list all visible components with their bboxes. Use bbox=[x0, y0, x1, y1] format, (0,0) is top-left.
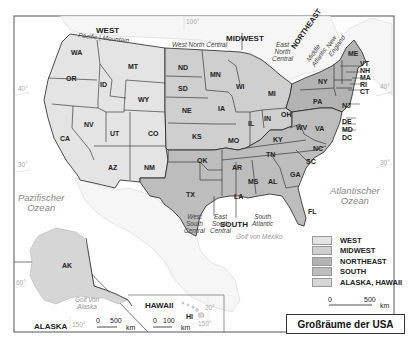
state-label-az: AZ bbox=[108, 164, 117, 171]
grid-label-20-hi: 20° bbox=[205, 305, 215, 312]
state-label-me: ME bbox=[348, 50, 359, 57]
alaska-scale-unit: km bbox=[126, 324, 135, 331]
map-title: Großräume der USA bbox=[297, 319, 393, 330]
state-label-ct: CT bbox=[360, 88, 369, 95]
state-label-ak: AK bbox=[62, 262, 72, 269]
state-label-id: ID bbox=[100, 81, 107, 88]
state-label-al: AL bbox=[268, 178, 277, 185]
division-label-east-south-central: East South Central bbox=[210, 214, 231, 234]
state-label-nm: NM bbox=[144, 164, 155, 171]
grid-label-30-left: 30° bbox=[18, 162, 28, 169]
state-label-de: DE bbox=[342, 118, 352, 125]
state-label-or: OR bbox=[66, 75, 77, 82]
state-label-md: MD bbox=[342, 126, 353, 133]
legend-item-alaska-hawaii: ALASKA, HAWAII bbox=[312, 277, 402, 288]
state-label-nh: NH bbox=[360, 67, 370, 74]
state-label-tx: TX bbox=[186, 191, 195, 198]
legend-swatch bbox=[312, 267, 332, 276]
state-label-ma: MA bbox=[360, 74, 371, 81]
state-label-tn: TN bbox=[266, 151, 275, 158]
division-label-west-north-central: West North Central bbox=[172, 42, 227, 49]
state-label-oh: OH bbox=[281, 111, 292, 118]
alaska-scale-value: 500 bbox=[110, 317, 122, 324]
state-label-la: LA bbox=[234, 193, 243, 200]
hawaii-scale-unit: km bbox=[181, 324, 190, 331]
state-label-il: IL bbox=[248, 120, 254, 127]
state-label-sc: SC bbox=[306, 158, 316, 165]
state-label-co: CO bbox=[148, 130, 159, 137]
state-label-nc: NC bbox=[313, 145, 323, 152]
label-pacific-ocean: Pazifischer Ozean bbox=[18, 193, 64, 214]
state-label-pa: PA bbox=[313, 98, 322, 105]
state-label-ok: OK bbox=[197, 157, 208, 164]
inset-label-hawaii: HAWAII bbox=[145, 302, 173, 310]
state-label-mt: MT bbox=[128, 63, 138, 70]
state-label-hi: HI bbox=[186, 313, 193, 320]
label-atlantic-ocean: Atlantischer Ozean bbox=[330, 186, 380, 207]
state-label-ms: MS bbox=[248, 178, 259, 185]
state-label-ny: NY bbox=[318, 78, 328, 85]
hawaii-scale-value: 100 bbox=[163, 317, 175, 324]
state-label-in: IN bbox=[264, 115, 271, 122]
state-label-ky: KY bbox=[273, 136, 283, 143]
state-label-wi: WI bbox=[236, 83, 245, 90]
state-label-mi: MI bbox=[268, 90, 276, 97]
legend-swatch bbox=[312, 278, 332, 287]
legend-item-west: WEST bbox=[312, 235, 402, 246]
label-gulf-of-alaska: Golf von Alaska bbox=[75, 296, 99, 310]
state-label-vt: VT bbox=[360, 60, 369, 67]
state-label-mn: MN bbox=[210, 71, 221, 78]
state-label-ut: UT bbox=[110, 130, 119, 137]
region-label-midwest: MIDWEST bbox=[226, 35, 264, 43]
division-label-west-south-central: West South Central bbox=[184, 214, 205, 234]
grid-label-40-right: 40° bbox=[380, 84, 390, 91]
state-label-ar: AR bbox=[232, 164, 242, 171]
state-label-mo: MO bbox=[228, 137, 239, 144]
state-label-wa: WA bbox=[71, 49, 82, 56]
state-label-wv: WV bbox=[296, 124, 307, 131]
state-label-dc: DC bbox=[342, 134, 352, 141]
legend-swatch bbox=[312, 246, 332, 255]
grid-label-100: 100° bbox=[186, 19, 199, 26]
state-label-wy: WY bbox=[138, 96, 149, 103]
grid-label-150-hi: 150° bbox=[198, 321, 211, 328]
state-label-ks: KS bbox=[192, 133, 202, 140]
state-label-sd: SD bbox=[178, 85, 188, 92]
alaska-scale-zero: 0 bbox=[96, 317, 100, 324]
state-label-nv: NV bbox=[84, 121, 94, 128]
hawaii-scale-zero: 0 bbox=[153, 317, 157, 324]
map-title-box: Großräume der USA bbox=[286, 314, 405, 334]
legend-swatch bbox=[312, 257, 332, 266]
state-label-va: VA bbox=[315, 125, 324, 132]
main-scale-zero: 0 bbox=[328, 296, 332, 303]
legend-swatch bbox=[312, 236, 332, 245]
grid-label-150-ak: 150° bbox=[72, 322, 85, 329]
division-label-south-atlantic: South Atlantic bbox=[252, 214, 273, 228]
map-legend: WEST MIDWEST NORTHEAST SOUTH ALASKA, HAW… bbox=[312, 235, 402, 288]
legend-item-south: SOUTH bbox=[312, 267, 402, 278]
state-label-ca: CA bbox=[60, 135, 70, 142]
grid-label-40-left: 40° bbox=[18, 86, 28, 93]
main-scale-value: 500 bbox=[364, 296, 376, 303]
state-label-ne: NE bbox=[182, 107, 192, 114]
legend-item-midwest: MIDWEST bbox=[312, 246, 402, 257]
grid-label-30-right: 30° bbox=[380, 160, 390, 167]
state-label-nd: ND bbox=[178, 64, 188, 71]
state-label-ga: GA bbox=[290, 171, 301, 178]
state-label-fl: FL bbox=[308, 208, 317, 215]
state-label-ri: RI bbox=[360, 81, 367, 88]
legend-item-northeast: NORTHEAST bbox=[312, 256, 402, 267]
label-gulf-of-mexico: Golf von Mexiko bbox=[236, 233, 283, 240]
state-label-nj: NJ bbox=[342, 102, 351, 109]
main-scale-unit: km bbox=[380, 302, 389, 309]
inset-label-alaska: ALASKA bbox=[34, 323, 67, 331]
state-label-ia: IA bbox=[218, 105, 225, 112]
grid-label-60: 60° bbox=[16, 280, 26, 287]
